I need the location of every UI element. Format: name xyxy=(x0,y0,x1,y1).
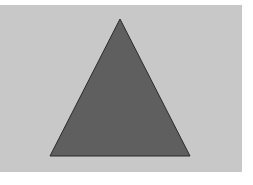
diagram-canvas xyxy=(0,0,253,185)
diagram-svg xyxy=(0,0,253,185)
